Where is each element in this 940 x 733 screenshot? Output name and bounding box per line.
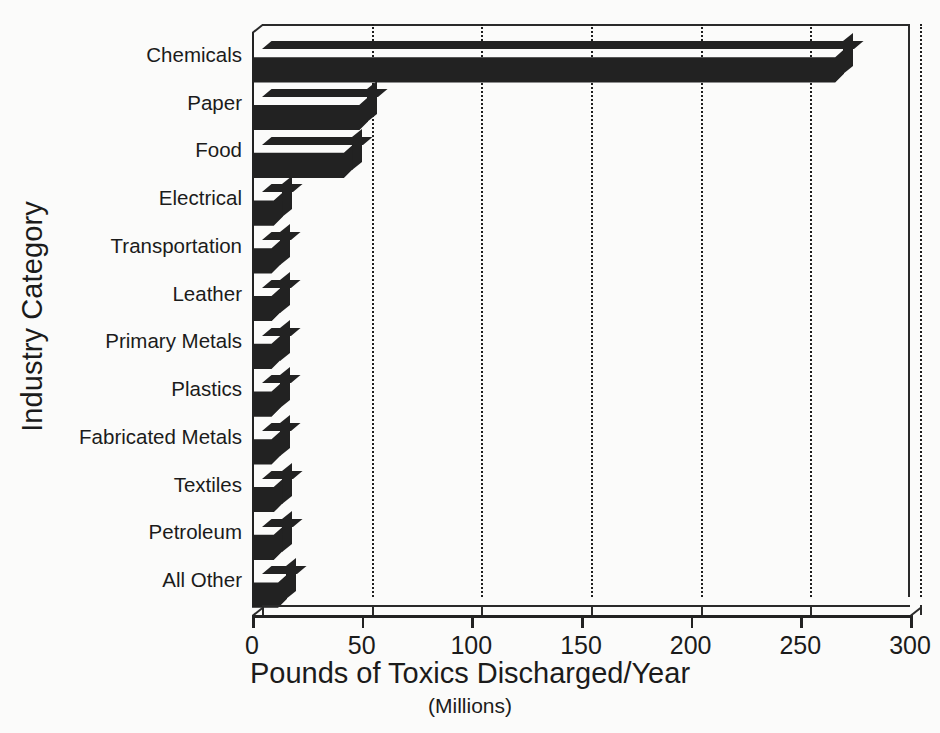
x-axis: 050100150200250300 bbox=[252, 605, 910, 609]
bar-side-face bbox=[282, 511, 292, 552]
bar-body bbox=[252, 288, 281, 321]
y-axis-tick-labels: ChemicalsPaperFoodElectricalTransportati… bbox=[50, 32, 242, 605]
bar-body bbox=[252, 479, 283, 512]
bar bbox=[252, 280, 291, 321]
x-axis-tick bbox=[252, 615, 255, 628]
x-axis-tick bbox=[800, 615, 803, 628]
y-axis-tick-label: All Other bbox=[50, 570, 242, 590]
x-axis-subtitle: (Millions) bbox=[0, 694, 940, 718]
y-axis-tick-label: Petroleum bbox=[50, 522, 242, 542]
x-axis-back-line bbox=[262, 605, 910, 607]
bar-body bbox=[252, 240, 281, 273]
x-axis-tick-label: 250 bbox=[779, 631, 821, 660]
y-axis-tick-label: Fabricated Metals bbox=[50, 427, 242, 447]
y-axis-tick-label: Paper bbox=[50, 93, 242, 113]
bar-side-face bbox=[352, 129, 362, 170]
y-axis-tick-label: Food bbox=[50, 140, 242, 160]
bar-body bbox=[252, 431, 281, 464]
y-axis-title: Industry Category bbox=[16, 107, 49, 527]
y-axis-tick-label: Electrical bbox=[50, 188, 242, 208]
x-axis-tick-back bbox=[810, 605, 812, 615]
bar-side-face bbox=[367, 81, 377, 122]
y-axis-tick-label: Primary Metals bbox=[50, 331, 242, 351]
gridline bbox=[481, 24, 483, 597]
bar-body bbox=[252, 192, 283, 225]
bar bbox=[252, 89, 378, 130]
x-axis-tick-back bbox=[701, 605, 703, 615]
gridline bbox=[701, 24, 703, 597]
y-axis-tick-label: Transportation bbox=[50, 236, 242, 256]
x-axis-tick-back bbox=[481, 605, 483, 615]
y-axis-tick-label: Textiles bbox=[50, 475, 242, 495]
bar bbox=[252, 184, 293, 225]
x-axis-tick bbox=[471, 615, 474, 628]
bar-body bbox=[252, 49, 844, 82]
bar-side-face bbox=[286, 558, 296, 599]
x-axis-tick-label: 50 bbox=[348, 631, 376, 660]
bar-side-face bbox=[280, 272, 290, 313]
x-axis-tick-label: 200 bbox=[670, 631, 712, 660]
bar-side-face bbox=[280, 320, 290, 361]
bar-body bbox=[252, 383, 281, 416]
plot-area bbox=[252, 32, 910, 605]
y-axis-tick-label: Plastics bbox=[50, 379, 242, 399]
x-axis-tick-back bbox=[591, 605, 593, 615]
x-axis-tick-label: 100 bbox=[450, 631, 492, 660]
bar bbox=[252, 375, 291, 416]
gridline bbox=[810, 24, 812, 597]
gridline bbox=[920, 24, 922, 597]
gridline bbox=[591, 24, 593, 597]
bar-body bbox=[252, 145, 353, 178]
x-axis-tick-label: 150 bbox=[560, 631, 602, 660]
bar-side-face bbox=[280, 224, 290, 265]
bar bbox=[252, 471, 293, 512]
x-axis-tick bbox=[910, 615, 913, 628]
bar bbox=[252, 566, 297, 607]
bar-body bbox=[252, 527, 283, 560]
x-axis-tick-back bbox=[372, 605, 374, 615]
bar-side-face bbox=[280, 367, 290, 408]
chart-canvas: Industry Category ChemicalsPaperFoodElec… bbox=[0, 0, 940, 733]
bar-top-face bbox=[262, 89, 388, 97]
bar-top-face bbox=[262, 41, 864, 49]
x-axis-tick-label: 300 bbox=[889, 631, 931, 660]
bar-side-face bbox=[843, 33, 853, 74]
x-axis-tick-label: 0 bbox=[245, 631, 259, 660]
bar bbox=[252, 328, 291, 369]
x-axis-tick bbox=[691, 615, 694, 628]
bar-body bbox=[252, 97, 368, 130]
bar bbox=[252, 423, 291, 464]
y-axis-tick-label: Leather bbox=[50, 284, 242, 304]
bar bbox=[252, 137, 363, 178]
bar-body bbox=[252, 574, 287, 607]
y-axis-tick-label: Chemicals bbox=[50, 45, 242, 65]
bar-side-face bbox=[280, 415, 290, 456]
bar-body bbox=[252, 336, 281, 369]
bar bbox=[252, 232, 291, 273]
bar bbox=[252, 519, 293, 560]
bar-top-face bbox=[262, 137, 372, 145]
x-axis-tick bbox=[362, 615, 365, 628]
x-axis-title: Pounds of Toxics Discharged/Year bbox=[0, 657, 940, 690]
x-axis-tick bbox=[581, 615, 584, 628]
bar bbox=[252, 41, 854, 82]
bar-side-face bbox=[282, 463, 292, 504]
bar-side-face bbox=[282, 176, 292, 217]
